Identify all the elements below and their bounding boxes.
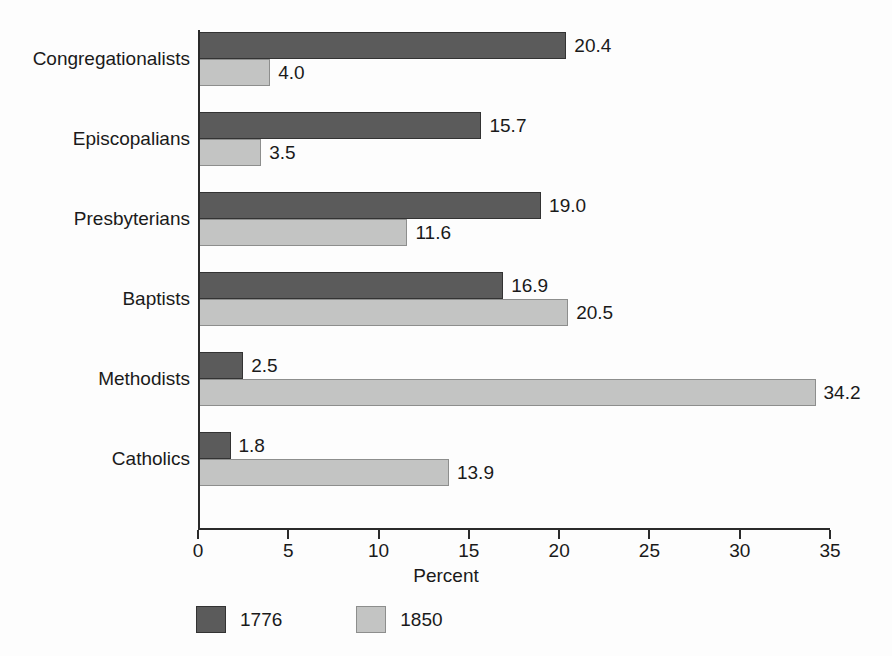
x-tick-label-35: 35: [819, 540, 840, 562]
bar-value-label-1850-congregationalists: 4.0: [278, 62, 304, 84]
x-tick-0: [197, 530, 199, 539]
bar-value-label-1850-episcopalians: 3.5: [269, 142, 295, 164]
bar-1776-methodists[interactable]: [198, 352, 243, 379]
legend-swatch-1850: [356, 606, 386, 633]
chart-legend: 1776 1850: [196, 606, 443, 633]
bar-value-label-1776-episcopalians: 15.7: [489, 115, 526, 137]
bar-value-label-1850-presbyterians: 11.6: [415, 222, 451, 244]
bar-1850-baptists[interactable]: [198, 299, 568, 326]
x-tick-label-15: 15: [458, 540, 479, 562]
bar-1850-presbyterians[interactable]: [198, 219, 407, 246]
x-tick-15: [468, 530, 470, 539]
category-label-baptists: Baptists: [0, 288, 190, 310]
x-axis-spine: [198, 528, 830, 530]
x-tick-label-20: 20: [549, 540, 570, 562]
bar-1776-presbyterians[interactable]: [198, 192, 541, 219]
x-axis-title: Percent: [0, 565, 892, 587]
bar-value-label-1850-baptists: 20.5: [576, 302, 613, 324]
legend-label-1776: 1776: [240, 609, 282, 631]
bar-chart-figure: 20.44.015.73.519.011.616.920.52.534.21.8…: [0, 0, 892, 656]
legend-label-1850: 1850: [400, 609, 442, 631]
bar-1776-baptists[interactable]: [198, 272, 503, 299]
legend-swatch-1776: [196, 606, 226, 633]
category-label-episcopalians: Episcopalians: [0, 128, 190, 150]
bar-value-label-1776-congregationalists: 20.4: [574, 35, 611, 57]
x-tick-label-30: 30: [729, 540, 750, 562]
x-tick-30: [739, 530, 741, 539]
category-label-presbyterians: Presbyterians: [0, 208, 190, 230]
category-label-congregationalists: Congregationalists: [0, 48, 190, 70]
legend-item-1776[interactable]: 1776: [196, 606, 282, 633]
bar-1850-methodists[interactable]: [198, 379, 816, 406]
x-tick-20: [558, 530, 560, 539]
category-label-catholics: Catholics: [0, 448, 190, 470]
x-tick-label-5: 5: [283, 540, 294, 562]
bar-value-label-1850-catholics: 13.9: [457, 462, 494, 484]
x-tick-label-25: 25: [639, 540, 660, 562]
x-tick-35: [829, 530, 831, 539]
bar-value-label-1776-presbyterians: 19.0: [549, 195, 586, 217]
bar-1776-episcopalians[interactable]: [198, 112, 481, 139]
bar-1776-congregationalists[interactable]: [198, 32, 566, 59]
bar-value-label-1776-baptists: 16.9: [511, 275, 548, 297]
x-tick-5: [287, 530, 289, 539]
x-tick-10: [378, 530, 380, 539]
bar-value-label-1776-methodists: 2.5: [251, 355, 277, 377]
category-label-methodists: Methodists: [0, 368, 190, 390]
x-tick-label-10: 10: [368, 540, 389, 562]
bar-1850-congregationalists[interactable]: [198, 59, 270, 86]
bar-1850-episcopalians[interactable]: [198, 139, 261, 166]
y-axis-spine: [198, 30, 200, 528]
bar-value-label-1776-catholics: 1.8: [239, 435, 265, 457]
bar-value-label-1850-methodists: 34.2: [824, 382, 861, 404]
bar-1850-catholics[interactable]: [198, 459, 449, 486]
legend-item-1850[interactable]: 1850: [356, 606, 442, 633]
x-tick-label-0: 0: [193, 540, 204, 562]
bar-1776-catholics[interactable]: [198, 432, 231, 459]
x-tick-25: [648, 530, 650, 539]
